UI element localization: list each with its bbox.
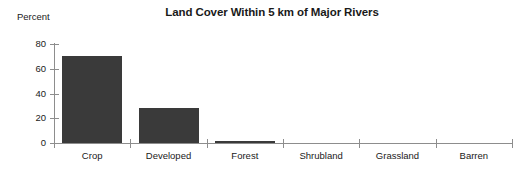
bar-developed	[139, 108, 199, 143]
x-axis-label-developed: Developed	[130, 150, 206, 161]
x-axis-label-shrubland: Shrubland	[283, 150, 359, 161]
y-tick-label: 60	[12, 64, 46, 74]
bar-forest	[215, 141, 275, 143]
y-tick-mark	[50, 94, 59, 95]
x-axis-label-grassland: Grassland	[359, 150, 435, 161]
y-tick-mark	[50, 118, 59, 119]
x-tick-mark	[207, 139, 208, 148]
x-tick-mark	[130, 139, 131, 148]
bar-crop	[62, 56, 122, 143]
x-tick-mark	[54, 139, 55, 148]
y-tick-mark	[50, 69, 59, 70]
x-axis-label-barren: Barren	[436, 150, 512, 161]
x-tick-mark	[436, 139, 437, 148]
x-tick-mark	[512, 139, 513, 148]
chart-title: Land Cover Within 5 km of Major Rivers	[128, 6, 416, 18]
x-tick-mark	[283, 139, 284, 148]
x-axis-label-forest: Forest	[207, 150, 283, 161]
y-axis-tick-labels: 020406080	[12, 0, 46, 177]
y-tick-mark	[50, 44, 59, 45]
chart-screenshot: Land Cover Within 5 km of Major Rivers P…	[0, 0, 520, 177]
x-tick-mark	[359, 139, 360, 148]
y-tick-label: 80	[12, 39, 46, 49]
y-tick-label: 0	[12, 138, 46, 148]
y-tick-label: 40	[12, 89, 46, 99]
x-axis-label-crop: Crop	[54, 150, 130, 161]
y-tick-label: 20	[12, 113, 46, 123]
